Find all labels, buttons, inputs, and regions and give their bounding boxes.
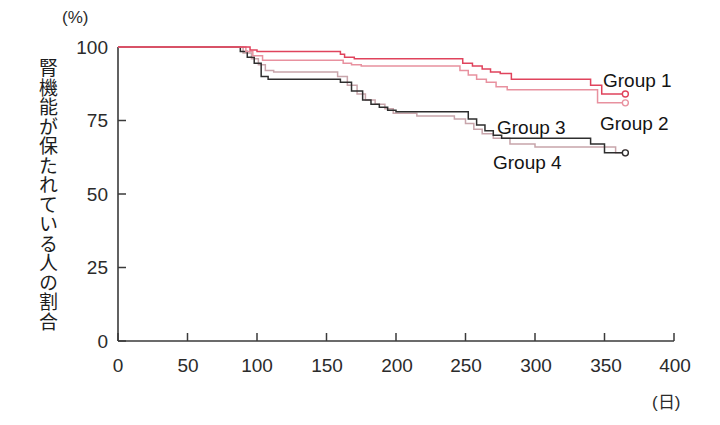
plot-area <box>0 0 720 425</box>
series-line-group-2 <box>118 47 625 103</box>
series-line-group-3 <box>118 47 625 153</box>
axis-lines <box>118 47 674 341</box>
endpoint-marker-group-1 <box>622 91 628 97</box>
endpoint-marker-group-2 <box>622 100 628 106</box>
series-line-group-1 <box>118 47 625 94</box>
endpoint-marker-group-3 <box>622 150 628 156</box>
series-curves <box>118 47 628 156</box>
axis-ticks <box>118 47 674 341</box>
kaplan-meier-chart: (%) 腎機能が保たれている人の割合 100 75 50 25 0 0 50 1… <box>0 0 720 425</box>
